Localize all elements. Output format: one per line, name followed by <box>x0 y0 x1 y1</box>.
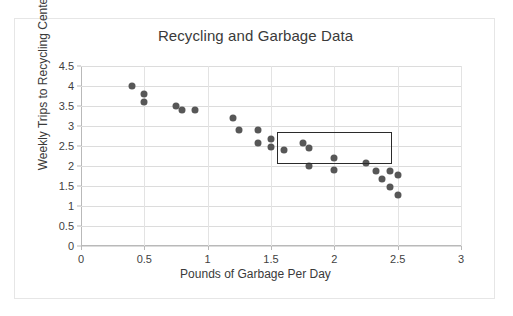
gridline-vertical <box>271 66 272 246</box>
data-point <box>236 127 243 134</box>
x-axis-tick-label: 1 <box>205 253 211 265</box>
y-axis-tick-label: 0.5 <box>59 220 74 232</box>
data-point <box>255 127 262 134</box>
data-point <box>387 183 394 190</box>
data-point <box>141 99 148 106</box>
y-axis-tick-label: 0 <box>68 240 74 252</box>
data-point <box>141 91 148 98</box>
y-axis-tick-mark <box>77 146 81 147</box>
x-axis-tick-mark <box>144 246 145 250</box>
x-axis-tick-mark <box>398 246 399 250</box>
data-point <box>394 171 401 178</box>
x-axis-tick-mark <box>271 246 272 250</box>
x-axis-tick-label: 0 <box>78 253 84 265</box>
highlight-box <box>277 132 392 164</box>
y-axis-tick-mark <box>77 226 81 227</box>
x-axis-tick-label: 3 <box>458 253 464 265</box>
y-axis-tick-label: 4 <box>68 80 74 92</box>
data-point <box>255 139 262 146</box>
x-axis-tick-label: 0.5 <box>137 253 152 265</box>
gridline-vertical <box>461 66 462 246</box>
x-axis-tick-label: 1.5 <box>263 253 278 265</box>
x-axis-tick-label: 2.5 <box>390 253 405 265</box>
y-axis-tick-mark <box>77 186 81 187</box>
plot-area: 00.511.522.533.544.5 00.511.522.53 <box>81 66 461 246</box>
y-axis-tick-label: 2 <box>68 160 74 172</box>
y-axis-tick-mark <box>77 126 81 127</box>
chart-title: Recycling and Garbage Data <box>15 27 496 44</box>
data-point <box>179 107 186 114</box>
y-axis-tick-label: 1 <box>68 200 74 212</box>
data-point <box>331 167 338 174</box>
x-axis-tick-mark <box>461 246 462 250</box>
data-point <box>306 163 313 170</box>
y-axis-tick-label: 4.5 <box>59 60 74 72</box>
chart-frame: Recycling and Garbage Data 00.511.522.53… <box>14 18 495 299</box>
x-axis-tick-label: 2 <box>331 253 337 265</box>
data-point <box>387 167 394 174</box>
y-axis-tick-mark <box>77 86 81 87</box>
y-axis-tick-mark <box>77 206 81 207</box>
y-axis-tick-label: 2.5 <box>59 140 74 152</box>
x-axis-tick-mark <box>334 246 335 250</box>
y-axis-tick-mark <box>77 66 81 67</box>
data-point <box>379 175 386 182</box>
data-point <box>268 135 275 142</box>
y-axis-tick-label: 3 <box>68 120 74 132</box>
x-axis-tick-mark <box>208 246 209 250</box>
x-axis-title: Pounds of Garbage Per Day <box>15 267 496 281</box>
gridline-vertical <box>398 66 399 246</box>
y-axis-tick-label: 3.5 <box>59 100 74 112</box>
y-axis-tick-label: 1.5 <box>59 180 74 192</box>
data-point <box>128 83 135 90</box>
y-axis-tick-mark <box>77 106 81 107</box>
data-point <box>394 191 401 198</box>
y-axis-tick-mark <box>77 166 81 167</box>
data-point <box>268 143 275 150</box>
data-point <box>230 115 237 122</box>
x-axis-tick-mark <box>81 246 82 250</box>
y-axis-line <box>81 66 82 246</box>
y-axis-title: Weekly Trips to Recycling Center <box>36 0 50 172</box>
gridline-vertical <box>208 66 209 246</box>
data-point <box>373 167 380 174</box>
data-point <box>192 107 199 114</box>
